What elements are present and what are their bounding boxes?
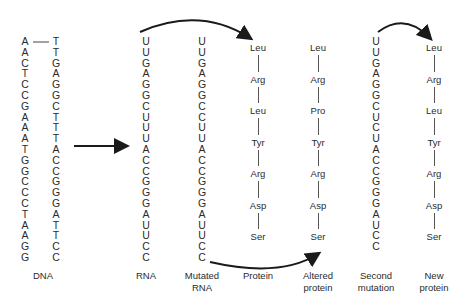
peptide-bond-line <box>258 118 259 135</box>
nucleotide: A <box>139 209 153 220</box>
dna-label: DNA <box>8 270 78 282</box>
curved-arrow-icon <box>210 254 318 268</box>
nucleotide: C <box>195 101 209 112</box>
amino-acid: Tyr <box>298 137 338 148</box>
amino-acid: Ser <box>414 231 454 242</box>
peptide-bond-line <box>258 213 259 230</box>
peptide-bond-line <box>318 150 319 167</box>
nucleotide: A <box>369 209 383 220</box>
new-protein-label: Newprotein <box>399 270 467 294</box>
nucleotide: C <box>369 241 383 252</box>
nucleotide: U <box>369 47 383 58</box>
amino-acid: Arg <box>414 168 454 179</box>
peptide-bond-line <box>434 118 435 135</box>
amino-acid: Leu <box>414 42 454 53</box>
peptide-bond-line <box>318 213 319 230</box>
arrows-layer <box>0 0 467 302</box>
nucleotide: A <box>18 47 32 58</box>
nucleotide: C <box>49 252 63 263</box>
nucleotide: T <box>49 47 63 58</box>
nucleotide: C <box>369 155 383 166</box>
amino-acid: Asp <box>414 200 454 211</box>
amino-acid: Leu <box>298 42 338 53</box>
amino-acid: Ser <box>298 231 338 242</box>
amino-acid: Ser <box>238 231 278 242</box>
nucleotide: C <box>139 101 153 112</box>
second-mutation-strand: UUGAGGCUCUACCGGGAUCC <box>369 36 383 252</box>
nucleotide: C <box>49 155 63 166</box>
amino-acid: Arg <box>238 74 278 85</box>
nucleotide: C <box>195 252 209 263</box>
amino-acid: Arg <box>298 168 338 179</box>
peptide-bond-line <box>318 55 319 72</box>
amino-acid: Arg <box>238 168 278 179</box>
amino-acid: Asp <box>238 200 278 211</box>
peptide-bond-line <box>434 181 435 198</box>
amino-acid: Asp <box>298 200 338 211</box>
nucleotide: A <box>49 209 63 220</box>
peptide-bond-line <box>258 87 259 104</box>
peptide-bond-line <box>434 55 435 72</box>
peptide-bond-line <box>434 213 435 230</box>
nucleotide: U <box>139 47 153 58</box>
nucleotide: U <box>195 47 209 58</box>
dna-right-strand: TTGAGGCTTTACCGGGATTCC <box>49 36 63 263</box>
amino-acid: Tyr <box>414 137 454 148</box>
nucleotide: G <box>18 101 32 112</box>
peptide-bond-line <box>258 55 259 72</box>
nucleotide: G <box>18 155 32 166</box>
amino-acid: Arg <box>414 74 454 85</box>
nucleotide: C <box>49 101 63 112</box>
peptide-bond-line <box>258 150 259 167</box>
amino-acid: Pro <box>298 105 338 116</box>
nucleotide: T <box>18 209 32 220</box>
mutated-rna-strand: UUGAGGCCUUACCGGGAUUCC <box>195 36 209 263</box>
nucleotide: C <box>139 252 153 263</box>
amino-acid: Arg <box>298 74 338 85</box>
nucleotide: C <box>195 155 209 166</box>
peptide-bond-line <box>318 118 319 135</box>
nucleotide: A <box>195 209 209 220</box>
peptide-bond-line <box>318 87 319 104</box>
amino-acid: Tyr <box>238 137 278 148</box>
peptide-bond-line <box>434 150 435 167</box>
amino-acid: Leu <box>238 105 278 116</box>
nucleotide: G <box>18 252 32 263</box>
rna-strand: UUGAGGCUUUACCGGGAUUCC <box>139 36 153 263</box>
amino-acid: Leu <box>238 42 278 53</box>
amino-acid: Leu <box>414 105 454 116</box>
peptide-bond-line <box>318 181 319 198</box>
nucleotide: C <box>139 155 153 166</box>
peptide-bond-line <box>434 87 435 104</box>
curved-arrow-icon <box>378 23 430 38</box>
dna-left-strand: AACTCCGAAATGGCCCTAAGG <box>18 36 32 263</box>
peptide-bond-line <box>258 181 259 198</box>
nucleotide: C <box>369 101 383 112</box>
